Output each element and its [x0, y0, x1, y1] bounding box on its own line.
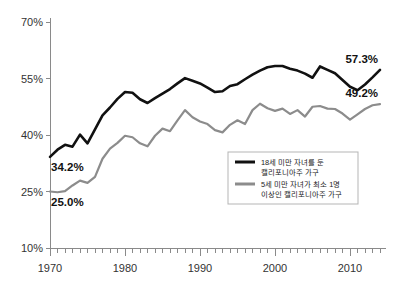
- y-axis-tick-label: 55%: [21, 73, 43, 85]
- y-axis-tick-label: 70%: [21, 16, 43, 28]
- x-axis-tick-label: 2000: [263, 262, 287, 274]
- legend-label: 18세 미만 자녀를 둔: [261, 158, 324, 167]
- y-axis-tick-label: 10%: [21, 242, 43, 254]
- line-chart: 10%25%40%55%70%1970198019902000201034.2%…: [0, 0, 413, 288]
- x-axis-tick-label: 1980: [113, 262, 137, 274]
- legend-label: 캘리포니아주 가구: [261, 168, 319, 177]
- y-axis-tick-label: 25%: [21, 186, 43, 198]
- x-axis-tick-label: 1990: [188, 262, 212, 274]
- data-point-label: 25.0%: [51, 196, 84, 208]
- legend-label: 5세 미만 자녀가 최소 1명: [261, 180, 340, 189]
- x-axis-tick-label: 1970: [38, 262, 62, 274]
- series-line-under-18: [50, 66, 380, 157]
- y-axis-tick-label: 40%: [21, 129, 43, 141]
- x-axis-tick-label: 2010: [338, 262, 362, 274]
- chart-legend: 18세 미만 자녀를 둔캘리포니아주 가구5세 미만 자녀가 최소 1명이상인 …: [228, 152, 358, 204]
- data-point-label: 49.2%: [345, 87, 378, 99]
- data-point-label: 34.2%: [51, 161, 84, 173]
- line-chart-container: 10%25%40%55%70%1970198019902000201034.2%…: [0, 0, 413, 288]
- legend-label: 이상인 캘리포니아주 가구: [261, 190, 342, 199]
- data-point-label: 57.3%: [345, 53, 378, 65]
